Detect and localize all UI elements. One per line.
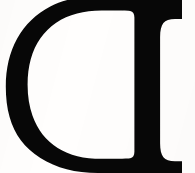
mirrored-d-glyph-svg: Large black mirrored serif capital D on … <box>0 0 195 173</box>
glyph-image-canvas: Large black mirrored serif capital D on … <box>0 0 195 173</box>
